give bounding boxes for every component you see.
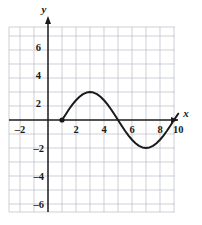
coordinate-plane-svg: x y –2 2 4 6 8 10 6 4 2 –2 –4 –6	[0, 0, 202, 225]
y-tick-label: –2	[33, 143, 45, 154]
curve-start-point-marker	[59, 117, 64, 122]
x-axis-label: x	[182, 107, 189, 119]
x-tick-label: 10	[173, 124, 184, 135]
x-tick-label: 4	[101, 124, 107, 135]
y-axis-label: y	[40, 3, 47, 15]
y-tick-label: 6	[36, 42, 41, 53]
x-tick-label: –2	[14, 124, 26, 135]
y-tick-label: –6	[33, 199, 45, 210]
y-tick-label: 4	[36, 70, 42, 81]
y-tick-label: 2	[36, 98, 41, 109]
y-tick-label: –4	[33, 171, 45, 182]
x-tick-label: 2	[73, 124, 78, 135]
y-axis-arrowhead	[45, 16, 51, 24]
x-tick-label: 6	[129, 124, 134, 135]
graph-figure: x y –2 2 4 6 8 10 6 4 2 –2 –4 –6	[0, 0, 202, 225]
x-tick-label: 8	[157, 124, 162, 135]
